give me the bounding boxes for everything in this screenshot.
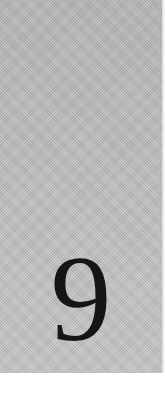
card-numeral: 9 (0, 238, 162, 360)
number-card: 9 (0, 0, 162, 373)
